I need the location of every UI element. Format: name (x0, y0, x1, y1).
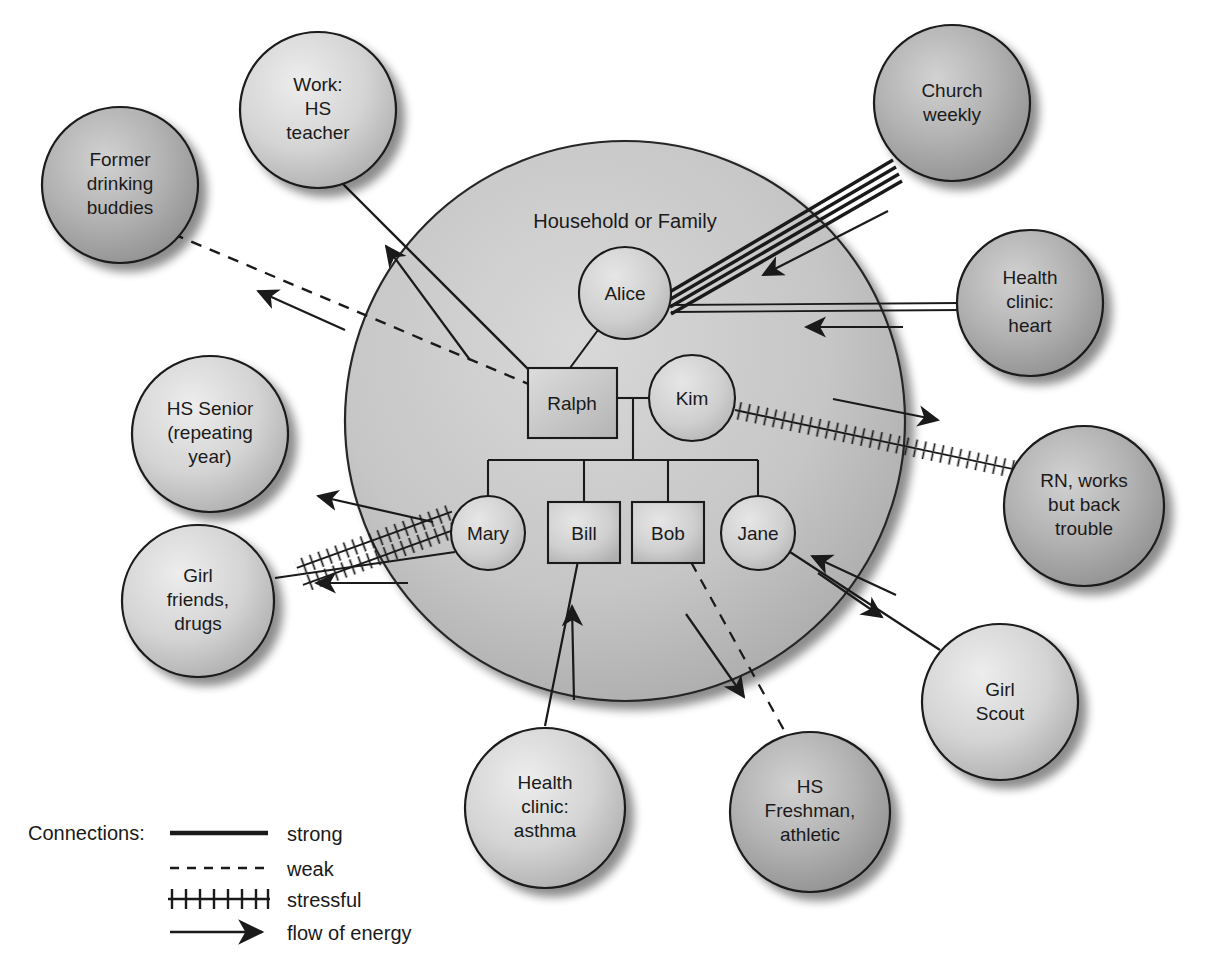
external-label-clinicheart-2: heart (1008, 315, 1052, 336)
external-label-hsfreshman-2: athletic (780, 824, 840, 845)
family-label-mary: Mary (467, 523, 510, 544)
family-node-bill[interactable]: Bill (548, 502, 620, 563)
legend-row-stressful: stressful (168, 889, 361, 911)
ecomap-canvas: Household or Family (0, 0, 1205, 964)
external-label-hssenior-1: (repeating (167, 422, 253, 443)
external-label-drinking-0: Former (89, 149, 151, 170)
legend-label-stressful: stressful (287, 889, 361, 911)
legend-label-energy: flow of energy (287, 922, 412, 944)
external-label-hssenior-2: year) (188, 446, 231, 467)
external-label-hsfreshman-0: HS (797, 776, 823, 797)
external-label-hsfreshman-1: Freshman, (765, 800, 856, 821)
external-label-clinicheart-0: Health (1003, 267, 1058, 288)
external-label-rn-2: trouble (1055, 518, 1113, 539)
external-label-girlfriends-1: friends, (167, 589, 229, 610)
external-label-hssenior-0: HS Senior (167, 398, 254, 419)
family-node-ralph[interactable]: Ralph (528, 368, 617, 438)
family-label-kim: Kim (676, 388, 709, 409)
legend-row-energy: flow of energy (170, 922, 412, 944)
external-label-clinicasthma-1: clinic: (521, 796, 569, 817)
family-label-bob: Bob (651, 523, 685, 544)
legend-label-strong: strong (287, 823, 343, 845)
household-title: Household or Family (533, 210, 716, 232)
external-label-girlfriends-2: drugs (174, 613, 222, 634)
external-node-church[interactable]: Church weekly (874, 25, 1030, 181)
external-node-clinic-heart[interactable]: Health clinic: heart (957, 230, 1103, 376)
external-node-girlfriends[interactable]: Girl friends, drugs (122, 525, 274, 677)
legend-row-strong: strong (170, 823, 343, 845)
external-label-girlscout-0: Girl (985, 679, 1015, 700)
external-node-drinking[interactable]: Former drinking buddies (42, 107, 198, 263)
external-label-rn-0: RN, works (1040, 470, 1128, 491)
external-node-hs-senior[interactable]: HS Senior (repeating year) (132, 356, 288, 512)
family-node-kim[interactable]: Kim (649, 355, 735, 441)
family-label-bill: Bill (571, 523, 596, 544)
external-node-clinic-asthma[interactable]: Health clinic: asthma (465, 728, 625, 888)
external-label-work-1: HS (305, 98, 331, 119)
external-label-clinicheart-1: clinic: (1006, 291, 1054, 312)
external-label-church-0: Church (921, 80, 982, 101)
ecomap-svg: Household or Family (0, 0, 1205, 964)
external-label-church-1: weekly (922, 104, 982, 125)
external-label-drinking-2: buddies (87, 197, 154, 218)
external-label-clinicasthma-0: Health (518, 772, 573, 793)
external-node-girlscout[interactable]: Girl Scout (922, 624, 1078, 780)
family-label-jane: Jane (737, 523, 778, 544)
external-label-rn-1: but back (1048, 494, 1120, 515)
family-label-alice: Alice (604, 283, 645, 304)
legend: Connections: strong weak stressful (28, 822, 412, 944)
external-node-hs-freshman[interactable]: HS Freshman, athletic (730, 732, 890, 892)
external-label-work-0: Work: (293, 74, 342, 95)
legend-row-weak: weak (170, 858, 335, 880)
legend-title: Connections: (28, 822, 145, 844)
external-node-rn[interactable]: RN, works but back trouble (1004, 426, 1164, 586)
external-label-work-2: teacher (286, 122, 350, 143)
family-node-mary[interactable]: Mary (451, 496, 525, 570)
external-label-drinking-1: drinking (87, 173, 154, 194)
external-label-girlscout-1: Scout (976, 703, 1025, 724)
external-node-work[interactable]: Work: HS teacher (240, 32, 396, 188)
family-node-bob[interactable]: Bob (632, 502, 704, 563)
family-label-ralph: Ralph (547, 393, 597, 414)
external-label-clinicasthma-2: asthma (514, 820, 577, 841)
family-node-alice[interactable]: Alice (579, 247, 671, 339)
legend-label-weak: weak (286, 858, 335, 880)
external-label-girlfriends-0: Girl (183, 565, 213, 586)
family-node-jane[interactable]: Jane (721, 496, 795, 570)
